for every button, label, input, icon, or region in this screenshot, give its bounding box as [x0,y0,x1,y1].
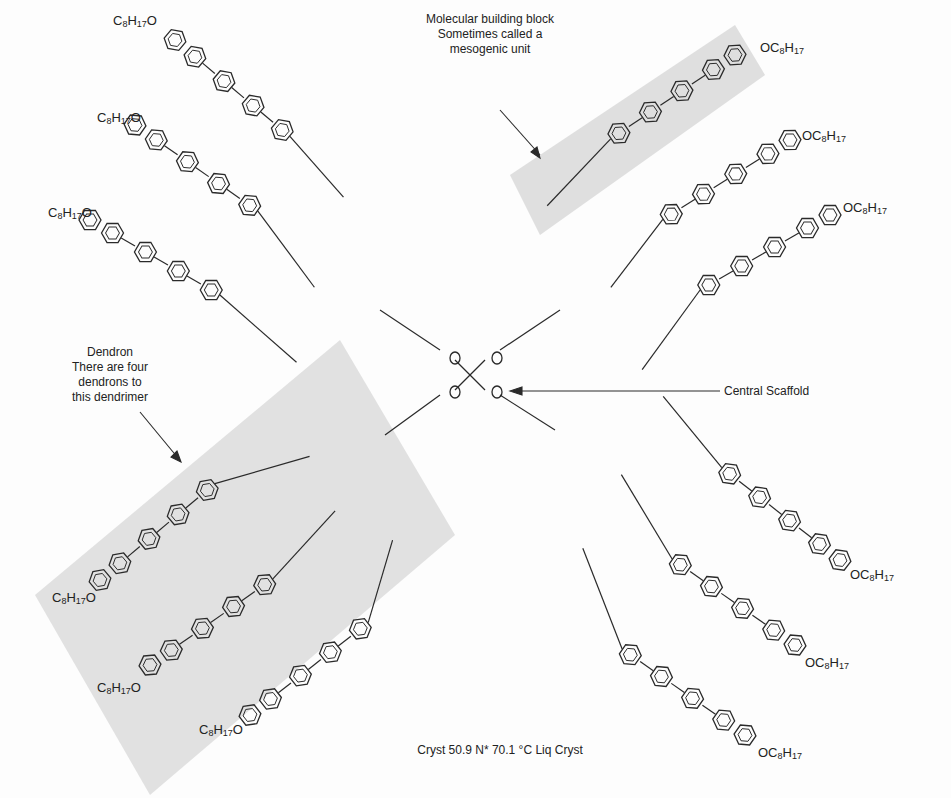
phase-transition-label: Cryst 50.9 N* 70.1 °C Liq Cryst [350,743,650,758]
terminal-group-right-5: OC8H17 [758,745,802,761]
dendron-line-1: Dendron [60,345,160,360]
terminal-group-right-2: OC8H17 [843,200,887,216]
terminal-group-left-4: C8H17O [97,680,141,696]
building-block-line-1: Molecular building block [390,12,590,27]
terminal-group-right-3: OC8H17 [850,567,894,583]
building-block-line-3: mesogenic unit [390,42,590,57]
dendron-line-4: this dendrimer [60,390,160,405]
terminal-group-left-1: C8H17O [97,110,141,126]
central-scaffold-label: Central Scaffold [724,384,809,399]
terminal-group-left-5: C8H17O [199,722,243,738]
terminal-group-right-0: OC8H17 [760,40,804,56]
terminal-group-left-2: C8H17O [48,205,92,221]
terminal-group-left-0: C8H17O [113,13,157,29]
central-scaffold [450,352,502,398]
terminal-group-right-1: OC8H17 [802,128,846,144]
dendron-highlight [35,340,455,795]
dendron-upper-left [72,25,440,362]
terminal-group-left-3: C8H17O [52,590,96,606]
dendron-lower-right [500,395,860,749]
dendron-line-3: dendrons to [60,375,160,390]
arrow-to-building-block [500,110,540,158]
dendron-annotation: Dendron There are four dendrons to this … [60,345,160,405]
building-block-line-2: Sometimes called a [390,27,590,42]
arrow-to-dendron [140,412,181,462]
dendron-line-2: There are four [60,360,160,375]
arrow-to-central-scaffold [510,387,720,395]
building-block-annotation: Molecular building block Sometimes calle… [390,12,590,57]
terminal-group-right-4: OC8H17 [805,655,849,671]
